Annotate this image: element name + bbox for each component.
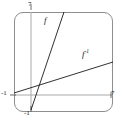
curve-f-inverse bbox=[14, 62, 113, 93]
curve-label-f-inverse-exponent: -1 bbox=[85, 48, 90, 54]
x-axis-min-label: -1 bbox=[1, 90, 7, 97]
curve-label-f: f bbox=[44, 16, 47, 25]
plot-canvas bbox=[0, 0, 122, 120]
y-axis-max-label: 7 bbox=[28, 1, 32, 8]
curve-label-f-inverse: f-1 bbox=[82, 50, 89, 59]
x-axis-max-label: 7 bbox=[111, 90, 115, 97]
y-axis-min-label: -1 bbox=[24, 110, 30, 117]
inverse-function-graph-figure: 7 7 -1 -1 f f-1 bbox=[0, 0, 122, 120]
